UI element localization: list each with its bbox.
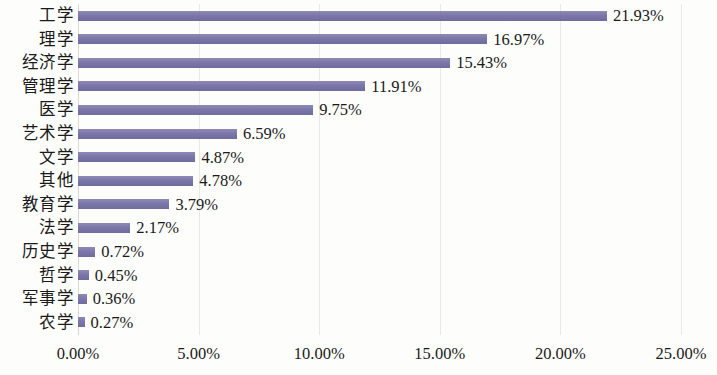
bar-value-label: 0.72% bbox=[95, 240, 144, 264]
bar-value-label: 6.59% bbox=[237, 122, 286, 146]
bar-row: 教育学3.79% bbox=[78, 193, 681, 217]
category-label: 哲学 bbox=[0, 264, 74, 288]
plot-area: 工学21.93%理学16.97%经济学15.43%管理学11.91%医学9.75… bbox=[78, 4, 681, 335]
category-label: 医学 bbox=[0, 98, 74, 122]
bar bbox=[78, 294, 87, 304]
bar bbox=[78, 129, 237, 139]
bar bbox=[78, 247, 95, 257]
category-label: 军事学 bbox=[0, 287, 74, 311]
bar-row: 工学21.93% bbox=[78, 4, 681, 28]
bar-value-label: 3.79% bbox=[169, 193, 218, 217]
bar-row: 法学2.17% bbox=[78, 216, 681, 240]
bar bbox=[78, 199, 169, 209]
bar-row: 军事学0.36% bbox=[78, 287, 681, 311]
category-label: 其他 bbox=[0, 169, 74, 193]
bar-value-label: 2.17% bbox=[130, 216, 179, 240]
x-tick-label: 25.00% bbox=[656, 341, 707, 367]
category-label: 管理学 bbox=[0, 75, 74, 99]
bar-row: 艺术学6.59% bbox=[78, 122, 681, 146]
x-tick-label: 5.00% bbox=[177, 341, 220, 367]
bar-value-label: 9.75% bbox=[313, 98, 362, 122]
bar bbox=[78, 81, 365, 91]
bar-value-label: 16.97% bbox=[487, 28, 544, 52]
category-label: 经济学 bbox=[0, 51, 74, 75]
bar bbox=[78, 176, 193, 186]
bar-row: 历史学0.72% bbox=[78, 240, 681, 264]
bar-value-label: 4.78% bbox=[193, 169, 242, 193]
bar-row: 管理学11.91% bbox=[78, 75, 681, 99]
bar-row: 农学0.27% bbox=[78, 311, 681, 335]
bar bbox=[78, 58, 450, 68]
bar-row: 哲学0.45% bbox=[78, 264, 681, 288]
bar bbox=[78, 105, 313, 115]
bar-value-label: 0.45% bbox=[89, 264, 138, 288]
category-label: 农学 bbox=[0, 311, 74, 335]
bar bbox=[78, 34, 487, 44]
category-label: 艺术学 bbox=[0, 122, 74, 146]
category-label: 理学 bbox=[0, 28, 74, 52]
bar bbox=[78, 152, 195, 162]
bar-row: 经济学15.43% bbox=[78, 51, 681, 75]
bar-chart: 工学21.93%理学16.97%经济学15.43%管理学11.91%医学9.75… bbox=[0, 0, 717, 375]
bar-value-label: 0.27% bbox=[85, 311, 134, 335]
bar-value-label: 15.43% bbox=[450, 51, 507, 75]
bar bbox=[78, 11, 607, 21]
bar-value-label: 4.87% bbox=[195, 146, 244, 170]
x-tick-label: 15.00% bbox=[414, 341, 465, 367]
bar-value-label: 21.93% bbox=[607, 4, 664, 28]
bar-row: 其他4.78% bbox=[78, 169, 681, 193]
gridline-2500 bbox=[681, 4, 682, 335]
category-label: 法学 bbox=[0, 216, 74, 240]
bar-row: 理学16.97% bbox=[78, 28, 681, 52]
category-label: 文学 bbox=[0, 146, 74, 170]
bar-row: 文学4.87% bbox=[78, 146, 681, 170]
bar-row: 医学9.75% bbox=[78, 98, 681, 122]
x-tick-label: 20.00% bbox=[535, 341, 586, 367]
bar-value-label: 0.36% bbox=[87, 287, 136, 311]
bar bbox=[78, 270, 89, 280]
category-label: 工学 bbox=[0, 4, 74, 28]
x-tick-label: 0.00% bbox=[57, 341, 100, 367]
x-tick-label: 10.00% bbox=[294, 341, 345, 367]
category-label: 教育学 bbox=[0, 193, 74, 217]
bar-value-label: 11.91% bbox=[365, 75, 421, 99]
x-axis: 0.00%5.00%10.00%15.00%20.00%25.00% bbox=[78, 341, 681, 371]
category-label: 历史学 bbox=[0, 240, 74, 264]
bar bbox=[78, 223, 130, 233]
